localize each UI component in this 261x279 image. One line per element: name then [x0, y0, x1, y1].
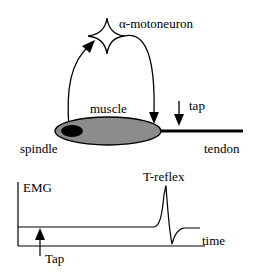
time-label: time	[202, 233, 225, 248]
muscle-label: muscle	[90, 101, 127, 116]
tap-bottom-head	[35, 228, 45, 240]
neuron-label: α-motoneuron	[119, 16, 193, 31]
tap-top-label: tap	[189, 98, 205, 113]
reflex-label: T-reflex	[143, 169, 185, 184]
stretch-reflex-diagram: α-motoneuron muscle tap spindle tendon E…	[0, 0, 261, 279]
spindle-shape	[61, 125, 83, 137]
efferent-pathway	[124, 35, 154, 113]
emg-label: EMG	[23, 180, 52, 195]
tap-bottom-label: Tap	[45, 251, 64, 266]
tendon-label: tendon	[204, 141, 240, 156]
afferent-pathway	[68, 45, 90, 128]
spindle-label: spindle	[20, 141, 58, 156]
tap-arrow-head	[174, 114, 184, 126]
